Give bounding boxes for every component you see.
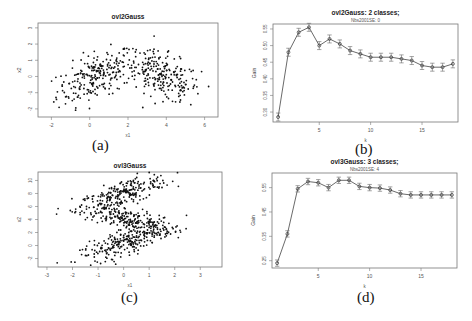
data-point [83,75,85,77]
data-point [143,238,145,240]
data-point [97,200,99,202]
data-point [128,222,130,224]
data-point [154,225,156,227]
data-point [123,237,125,239]
data-point [81,210,83,212]
data-point [105,75,107,77]
data-point [121,61,123,63]
data-point [149,194,151,196]
data-point [126,82,128,84]
data-point [168,85,170,87]
data-point [134,75,136,77]
data-point [94,244,96,246]
data-point [113,261,115,263]
data-point [94,240,96,242]
data-point [166,230,168,232]
data-point [71,100,73,102]
data-point [172,180,174,182]
data-point [133,220,135,222]
data-point [170,233,172,235]
data-point [140,245,142,247]
y-tick-label: 0.55 [263,24,268,33]
data-point [85,74,87,76]
data-point [138,185,140,187]
data-point [99,64,101,66]
data-point [143,52,145,54]
data-point [111,209,113,211]
y-tick-label: -2 [28,106,33,110]
data-point [170,83,172,85]
data-point [147,50,149,52]
data-point [166,70,168,72]
y-tick-label: 4 [28,218,33,221]
data-point [143,231,145,233]
data-point [123,234,125,236]
data-point [153,85,155,87]
data-point [148,172,150,174]
data-point [158,58,160,60]
data-point [85,248,87,250]
data-point [93,256,95,258]
data-point [174,84,176,86]
data-point [173,72,175,74]
data-point [123,222,125,224]
data-point [108,74,110,76]
data-point [97,245,99,247]
data-point [128,49,130,51]
data-point [113,190,115,192]
data-point [137,244,139,246]
data-point [119,238,121,240]
data-point [107,72,109,74]
data-point [176,74,178,76]
data-point [128,189,130,191]
data-point [112,246,114,248]
data-point [116,201,118,203]
data-point [175,101,177,103]
data-point [96,251,98,253]
data-point [94,250,96,252]
data-point [124,82,126,84]
data-point [103,69,105,71]
data-point [149,63,151,65]
data-point [152,183,154,185]
data-point [132,246,134,248]
data-point [152,221,154,223]
data-point [139,242,141,244]
data-point [79,212,81,214]
data-point [131,185,133,187]
data-point [159,78,161,80]
data-point [118,212,120,214]
data-point [96,94,98,96]
data-point [111,67,113,69]
data-point [117,188,119,190]
data-point [122,184,124,186]
data-point [136,227,138,229]
data-point [123,74,125,76]
data-point [168,50,170,52]
data-point [153,228,155,230]
data-point [110,85,112,87]
data-point [106,257,108,259]
data-point [121,181,123,183]
data-point [133,70,135,72]
data-point [142,61,144,63]
data-point [137,230,139,232]
data-point [171,89,173,91]
data-point [117,251,119,253]
data-point [176,77,178,79]
data-point [120,256,122,258]
data-point [96,208,98,210]
data-point [115,211,117,213]
chart-subtitle: Nbs2001SE: 4 [350,167,380,172]
data-point [150,95,152,97]
data-point [142,72,144,74]
data-point [157,176,159,178]
data-point [177,84,179,86]
data-point [94,93,96,95]
x-tick-label: 2 [127,122,130,128]
data-point [155,61,157,63]
data-point [144,78,146,80]
data-point [162,101,164,103]
data-point [109,236,111,238]
data-point [114,239,116,241]
